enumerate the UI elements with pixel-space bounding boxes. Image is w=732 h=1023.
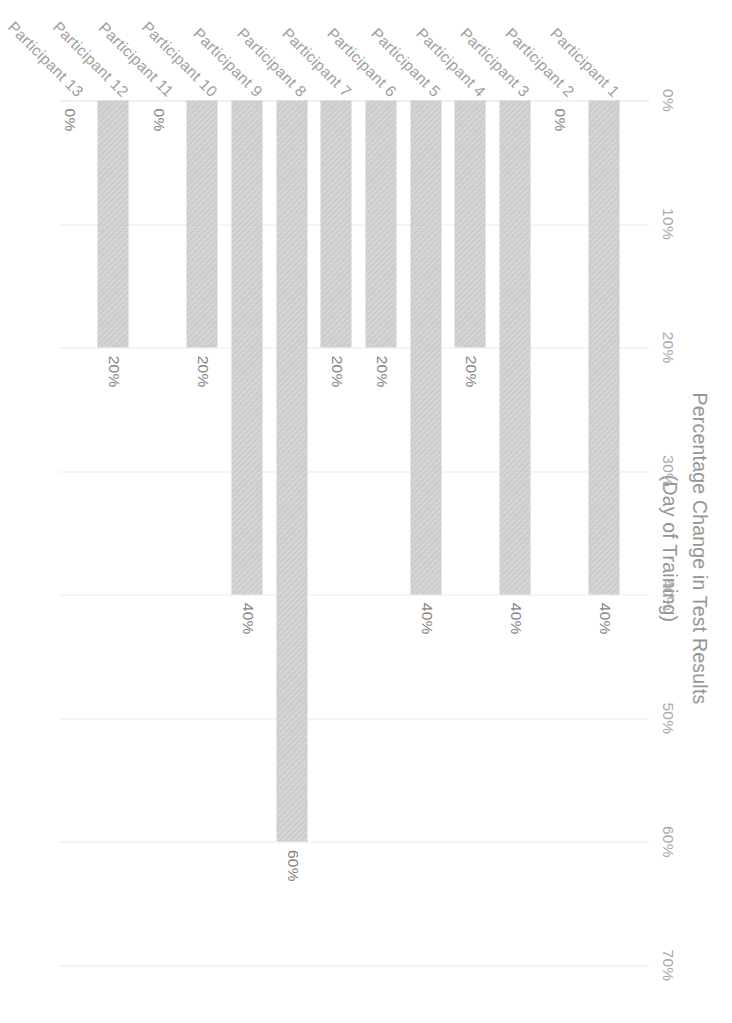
bar-value-label: 40% <box>417 602 435 634</box>
bar-row: 20% <box>325 100 370 965</box>
x-axis-tick-labels: 0%10%20%30%40%50%60%70% <box>654 100 676 965</box>
bar-value-label: 20% <box>327 355 345 387</box>
bar-row: 20% <box>102 100 147 965</box>
bar-value-label: 20% <box>104 355 122 387</box>
bar-row: 40% <box>414 100 459 965</box>
bar-row: 60% <box>280 100 325 965</box>
x-tick-label: 70% <box>658 949 676 981</box>
bar-value-label: 0% <box>60 108 78 131</box>
plot-area: 40%0%40%20%40%20%20%60%40%20%0%20%0% <box>67 0 647 1023</box>
bar-chart-figure: Percentage Change in Test Results (Day o… <box>0 0 732 1023</box>
bar-row: 40% <box>235 100 280 965</box>
bar-row: 20% <box>191 100 236 965</box>
bar-rows: 40%0%40%20%40%20%20%60%40%20%0%20%0% <box>67 100 637 965</box>
plot-inner: 40%0%40%20%40%20%20%60%40%20%0%20%0% <box>67 100 637 965</box>
bar-row: 0% <box>57 100 102 965</box>
bar-value-label: 0% <box>149 108 167 131</box>
bar-row: 20% <box>459 100 504 965</box>
bar-value-label: 20% <box>461 355 479 387</box>
bar-row: 0% <box>146 100 191 965</box>
x-tick-label: 30% <box>658 455 676 487</box>
x-tick-label: 50% <box>658 702 676 734</box>
x-tick-label: 60% <box>658 825 676 857</box>
chart-page: Percentage Change in Test Results (Day o… <box>0 0 732 1023</box>
bar-value-label: 20% <box>372 355 390 387</box>
bar-value-label: 20% <box>193 355 211 387</box>
chart-title-line-1: Percentage Change in Test Results <box>688 392 710 704</box>
bar-row: 0% <box>548 100 593 965</box>
bar-value-label: 40% <box>595 602 613 634</box>
x-tick-label: 40% <box>658 578 676 610</box>
rotated-chart-canvas: Percentage Change in Test Results (Day o… <box>0 0 732 1023</box>
bar-value-label: 40% <box>238 602 256 634</box>
bar-value-label: 40% <box>506 602 524 634</box>
x-tick-label: 0% <box>658 88 676 111</box>
x-tick-label: 10% <box>658 208 676 240</box>
bar-value-label: 0% <box>550 108 568 131</box>
x-tick-label: 20% <box>658 331 676 363</box>
bar-value-label: 60% <box>283 849 301 881</box>
bar-row: 40% <box>592 100 637 965</box>
bar-row: 20% <box>369 100 414 965</box>
bar-row: 40% <box>503 100 548 965</box>
